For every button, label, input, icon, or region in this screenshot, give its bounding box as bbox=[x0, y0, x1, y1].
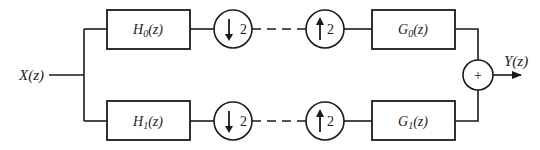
filter-label: G1(z) bbox=[398, 114, 428, 131]
upsampler-circle bbox=[306, 102, 344, 140]
wire bbox=[455, 29, 478, 60]
downsample-factor: 2 bbox=[240, 114, 247, 129]
input-label: X(z) bbox=[18, 67, 44, 84]
analysis-filter-h0: H0(z) bbox=[107, 10, 190, 49]
output-signal: Y(z) bbox=[493, 53, 528, 75]
channel-1: H1(z) 2 2 G1(z) bbox=[84, 90, 478, 140]
upsampler-1: 2 bbox=[306, 102, 344, 140]
plus-icon: + bbox=[474, 68, 482, 83]
upsampler-circle bbox=[306, 10, 344, 48]
downsampler-1: 2 bbox=[214, 102, 252, 140]
filter-bank-diagram: X(z) H0(z) 2 2 G0(z) bbox=[0, 0, 540, 150]
downsampler-0: 2 bbox=[214, 10, 252, 48]
analysis-filter-h1: H1(z) bbox=[107, 101, 190, 140]
upsampler-0: 2 bbox=[306, 10, 344, 48]
filter-label: H1(z) bbox=[132, 114, 163, 131]
synthesis-filter-g0: G0(z) bbox=[372, 10, 455, 49]
upsample-factor: 2 bbox=[327, 22, 334, 37]
filter-label: H0(z) bbox=[132, 22, 163, 39]
channel-0: H0(z) 2 2 G0(z) bbox=[84, 10, 478, 60]
summing-junction: + bbox=[463, 60, 493, 90]
wire bbox=[455, 90, 478, 121]
downsample-factor: 2 bbox=[240, 22, 247, 37]
upsample-factor: 2 bbox=[327, 114, 334, 129]
output-label: Y(z) bbox=[504, 53, 528, 70]
filter-label: G0(z) bbox=[398, 22, 428, 39]
synthesis-filter-g1: G1(z) bbox=[372, 101, 455, 140]
input-signal: X(z) bbox=[18, 29, 84, 121]
